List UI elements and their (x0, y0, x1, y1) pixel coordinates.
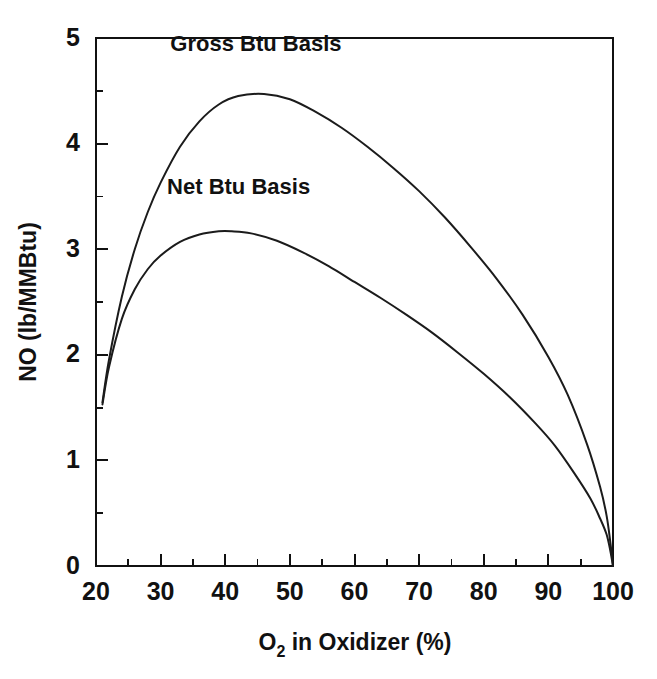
y-tick-label: 2 (66, 339, 80, 367)
x-tick-label: 20 (82, 577, 110, 605)
y-tick-label: 4 (66, 128, 80, 156)
y-axis-title: NO (lb/MMBtu) (15, 222, 41, 382)
x-axis-tick-labels: 2030405060708090100 (82, 577, 634, 605)
y-tick-label: 3 (66, 234, 80, 262)
y-tick-label: 1 (66, 445, 80, 473)
no-vs-o2-line-chart: 012345 2030405060708090100 Gross Btu Bas… (0, 0, 657, 679)
x-tick-label: 80 (470, 577, 498, 605)
x-tick-label: 90 (534, 577, 562, 605)
x-tick-label: 30 (147, 577, 175, 605)
x-tick-label: 70 (405, 577, 433, 605)
x-tick-label: 50 (276, 577, 304, 605)
chart-figure: 012345 2030405060708090100 Gross Btu Bas… (0, 0, 657, 679)
y-tick-label: 0 (66, 551, 80, 579)
series-label-gross-btu-basis: Gross Btu Basis (170, 31, 341, 56)
series-label-net-btu-basis: Net Btu Basis (167, 174, 310, 199)
x-tick-label: 100 (592, 577, 634, 605)
x-tick-label: 60 (341, 577, 369, 605)
y-tick-label: 5 (66, 23, 80, 51)
x-tick-label: 40 (211, 577, 239, 605)
